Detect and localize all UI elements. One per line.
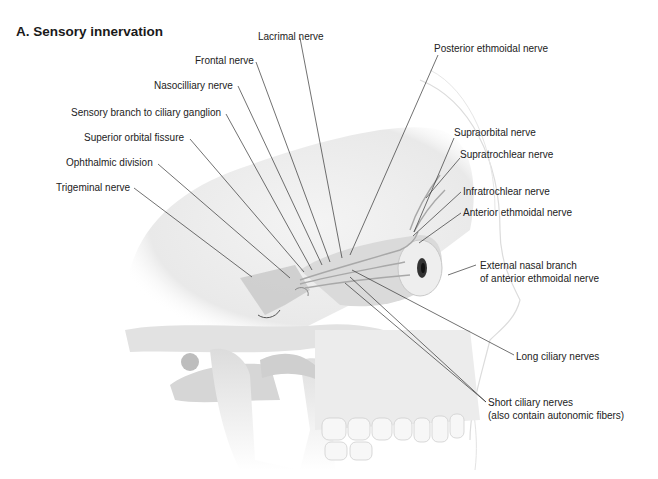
label-sensory-branch-ciliary-ganglion: Sensory branch to ciliary ganglion xyxy=(71,107,221,119)
label-trigeminal-nerve: Trigeminal nerve xyxy=(56,182,130,194)
label-supraorbital-nerve: Supraorbital nerve xyxy=(454,127,536,139)
label-anterior-ethmoidal-nerve: Anterior ethmoidal nerve xyxy=(463,207,572,219)
label-posterior-ethmoidal-nerve: Posterior ethmoidal nerve xyxy=(434,43,548,55)
eyeball xyxy=(417,258,427,278)
label-external-nasal-branch-line2: of anterior ethmoidal nerve xyxy=(480,273,599,285)
label-external-nasal-branch: External nasal branch xyxy=(480,260,577,272)
label-long-ciliary-nerves: Long ciliary nerves xyxy=(516,351,599,363)
label-ophthalmic-division: Ophthalmic division xyxy=(66,157,153,169)
figure-title: A. Sensory innervation xyxy=(16,24,163,39)
label-lacrimal-nerve: Lacrimal nerve xyxy=(258,31,324,43)
label-short-ciliary-nerves: Short ciliary nerves xyxy=(488,397,573,409)
label-infratrochlear-nerve: Infratrochlear nerve xyxy=(463,186,550,198)
label-frontal-nerve: Frontal nerve xyxy=(195,55,254,67)
label-superior-orbital-fissure: Superior orbital fissure xyxy=(84,132,184,144)
label-nasociliary-nerve: Nasocilliary nerve xyxy=(154,80,233,92)
label-supratrochlear-nerve: Supratrochlear nerve xyxy=(460,149,553,161)
maxilla-teeth xyxy=(315,330,480,460)
label-short-ciliary-nerves-line2: (also contain autonomic fibers) xyxy=(488,410,624,422)
